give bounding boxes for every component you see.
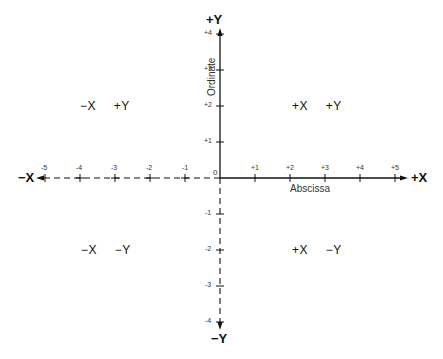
x-negative-label: −X xyxy=(18,170,34,185)
x-positive-label: +X xyxy=(411,170,427,185)
cartesian-coordinate-diagram: +Y −Y +X −X Abscissa Ordinate 0 -5 -4 -3… xyxy=(0,0,443,359)
x-tick-label: +4 xyxy=(356,164,364,171)
y-tick-label: +2 xyxy=(204,101,212,108)
positive-y-arrow-icon xyxy=(218,28,223,36)
quadrant-4-label: +X −Y xyxy=(292,243,342,257)
quadrant-4-y-sign: −Y xyxy=(326,243,342,257)
x-tick-label: -4 xyxy=(76,164,82,171)
y-tick-label: -1 xyxy=(205,209,211,216)
y-positive-label: +Y xyxy=(206,12,222,27)
quadrant-1-x-sign: +X xyxy=(292,99,308,113)
ordinate-label: Ordinate xyxy=(206,58,217,96)
quadrant-1-y-sign: +Y xyxy=(326,99,342,113)
quadrant-2-x-sign: −X xyxy=(80,99,96,113)
x-tick-label: -1 xyxy=(182,164,188,171)
y-tick-label: -4 xyxy=(205,317,211,324)
y-tick-label: -3 xyxy=(205,281,211,288)
y-tick-label: +1 xyxy=(204,137,212,144)
negative-x-arrow-icon xyxy=(36,176,44,181)
y-tick-label: +3 xyxy=(204,65,212,72)
quadrant-3-y-sign: −Y xyxy=(115,243,131,257)
x-tick-label: +1 xyxy=(251,164,259,171)
x-tick-label: -5 xyxy=(41,164,47,171)
quadrant-4-x-sign: +X xyxy=(292,243,308,257)
abscissa-label: Abscissa xyxy=(290,183,330,194)
x-tick-label: +2 xyxy=(286,164,294,171)
quadrant-1-label: +X +Y xyxy=(292,99,342,113)
x-tick-label: -2 xyxy=(146,164,152,171)
positive-x-arrow-icon xyxy=(400,176,408,181)
quadrant-2-y-sign: +Y xyxy=(114,99,130,113)
quadrant-2-label: −X +Y xyxy=(80,99,130,113)
negative-y-arrow-icon xyxy=(218,322,223,330)
y-tick-label: -2 xyxy=(205,245,211,252)
quadrant-3-label: −X −Y xyxy=(81,243,131,257)
y-tick-label: +4 xyxy=(204,29,212,36)
axes-drawing xyxy=(0,0,443,359)
origin-label: 0 xyxy=(213,168,217,177)
x-tick-label: +3 xyxy=(321,164,329,171)
y-negative-label: −Y xyxy=(211,331,227,346)
quadrant-3-x-sign: −X xyxy=(81,243,97,257)
x-tick-label: +5 xyxy=(391,164,399,171)
x-tick-label: -3 xyxy=(111,164,117,171)
